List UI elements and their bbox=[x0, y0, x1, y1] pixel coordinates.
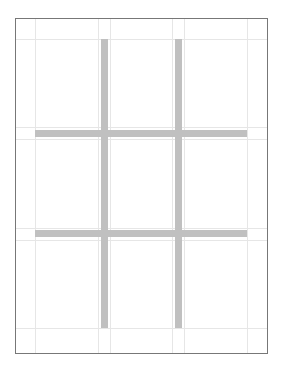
page-frame bbox=[15, 18, 268, 354]
layout-canvas bbox=[0, 0, 281, 367]
